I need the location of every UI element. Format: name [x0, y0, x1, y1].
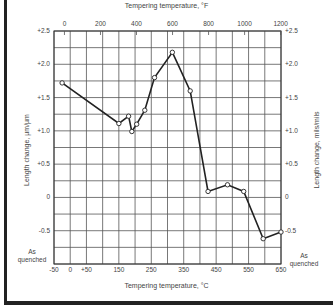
left-axis-tick-label: 0 [46, 194, 50, 201]
right-axis-tick-label: 0 [285, 194, 289, 201]
data-point [152, 75, 156, 79]
right-axis-tick-label: +1.5 [285, 95, 298, 102]
right-axis-tick-label: +2.0 [285, 61, 298, 68]
bottom-axis-tick-label: 0 [68, 267, 72, 274]
right-axis-tick-label: +0.5 [285, 161, 298, 168]
left-axis-tick-label: +1.0 [37, 128, 50, 135]
top-axis-tick-label: 1000 [237, 21, 251, 28]
as-quenched-left-label: Asquenched [12, 248, 52, 264]
data-point [279, 230, 283, 234]
data-point [143, 108, 147, 112]
data-point [126, 114, 130, 118]
right-axis-tick-label: +1.0 [285, 128, 298, 135]
bottom-axis-tick-label: 350 [178, 267, 189, 274]
right-axis-tick-label: +2.5 [285, 28, 298, 35]
data-point [225, 183, 229, 187]
left-axis-tick-label: +2.0 [37, 61, 50, 68]
data-point [60, 81, 64, 85]
data-line [62, 52, 281, 238]
data-point [170, 50, 174, 54]
data-point [206, 189, 210, 193]
as-quenched-right-label: Asquenched [284, 252, 324, 268]
data-point [117, 121, 121, 125]
right-axis-tick-label: -0.5 [285, 228, 296, 235]
bottom-axis-tick-label: +50 [81, 267, 92, 274]
bottom-axis-tick-label: 250 [146, 267, 157, 274]
bottom-axis-tick-label: 450 [211, 267, 222, 274]
left-axis-tick-label: +2.5 [37, 28, 50, 35]
top-axis-tick-label: 200 [95, 21, 106, 28]
left-axis-tick-label: +1.5 [37, 95, 50, 102]
data-point [188, 89, 192, 93]
data-point [130, 129, 134, 133]
top-axis-tick-label: 600 [167, 21, 178, 28]
data-point [242, 189, 246, 193]
left-axis-tick-label: +0.5 [37, 161, 50, 168]
top-axis-tick-label: 400 [131, 21, 142, 28]
bottom-axis-tick-label: 150 [113, 267, 124, 274]
data-point [261, 237, 265, 241]
data-point [134, 122, 138, 126]
top-axis-tick-label: 0 [63, 21, 67, 28]
top-axis-tick-label: 800 [203, 21, 214, 28]
bottom-axis-tick-label: -50 [49, 267, 58, 274]
left-axis-tick-label: -0.5 [39, 228, 50, 235]
bottom-axis-tick-label: 550 [243, 267, 254, 274]
